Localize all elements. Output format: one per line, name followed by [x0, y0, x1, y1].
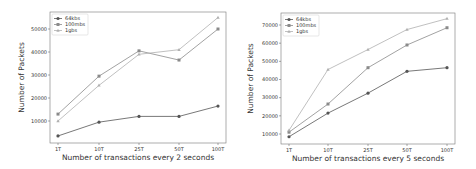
100mbs-marker	[178, 59, 181, 62]
64kbs-marker	[287, 135, 290, 138]
x-tick-label: 1T	[55, 146, 62, 152]
series-line	[58, 106, 218, 136]
legend-label: 1gbs	[65, 27, 78, 34]
x-tick-label: 10T	[323, 147, 333, 153]
x-axis-label: Number of transactions every 2 seconds	[62, 153, 214, 162]
chart-1: 10000200003000040000500001T10T25T50T100T…	[17, 12, 226, 162]
series-64kbs	[287, 66, 448, 138]
series-100mbs	[57, 28, 220, 116]
100mbs-marker	[446, 26, 449, 29]
chart-2: 100002000030000400005000060000700001T10T…	[246, 13, 455, 163]
series-line	[289, 28, 447, 132]
legend-100mbs-marker	[57, 23, 60, 26]
legend: 64kbs100mbs1gbs	[52, 14, 88, 35]
series-64kbs	[56, 104, 219, 137]
figure: 10000200003000040000500001T10T25T50T100T…	[0, 0, 476, 169]
x-tick-label: 25T	[134, 146, 144, 152]
64kbs-marker	[445, 66, 448, 69]
x-tick-label: 100T	[212, 146, 226, 152]
legend-64kbs-marker	[56, 17, 59, 20]
x-tick-label: 1T	[286, 147, 293, 153]
64kbs-marker	[177, 115, 180, 118]
100mbs-marker	[367, 66, 370, 69]
charts-canvas: 10000200003000040000500001T10T25T50T100T…	[0, 0, 476, 169]
legend: 64kbs100mbs1gbs	[283, 15, 319, 36]
series-line	[58, 29, 218, 114]
64kbs-marker	[97, 121, 100, 124]
64kbs-marker	[326, 112, 329, 115]
x-tick-label: 50T	[402, 147, 412, 153]
y-tick-label: 20000	[262, 113, 278, 119]
y-axis-label: Number of Packets	[17, 42, 26, 113]
series-line	[289, 68, 447, 137]
100mbs-marker	[57, 113, 60, 116]
64kbs-marker	[405, 70, 408, 73]
y-tick-label: 50000	[31, 26, 47, 32]
64kbs-marker	[216, 104, 219, 107]
series-100mbs	[288, 26, 449, 133]
100mbs-marker	[406, 43, 409, 46]
100mbs-marker	[327, 103, 330, 106]
x-axis-label: Number of transactions every 5 seconds	[292, 154, 444, 163]
legend-label: 1gbs	[296, 28, 309, 35]
1gbs-marker	[216, 16, 219, 19]
x-tick-label: 100T	[441, 147, 455, 153]
100mbs-marker	[98, 75, 101, 78]
y-tick-label: 50000	[262, 58, 278, 64]
y-tick-label: 60000	[262, 40, 278, 46]
64kbs-marker	[56, 134, 59, 137]
64kbs-marker	[366, 92, 369, 95]
1gbs-marker	[445, 17, 448, 20]
y-tick-label: 30000	[262, 94, 278, 100]
legend-100mbs-marker	[288, 24, 291, 27]
x-tick-label: 50T	[174, 146, 184, 152]
y-tick-label: 20000	[31, 95, 47, 101]
x-tick-label: 10T	[94, 146, 104, 152]
x-tick-label: 25T	[363, 147, 373, 153]
y-tick-label: 30000	[31, 72, 47, 78]
y-tick-label: 10000	[31, 118, 47, 124]
y-tick-label: 40000	[262, 76, 278, 82]
y-axis-label: Number of Packets	[246, 43, 255, 114]
y-tick-label: 70000	[262, 22, 278, 28]
legend-64kbs-marker	[287, 18, 290, 21]
100mbs-marker	[138, 49, 141, 52]
y-tick-label: 40000	[31, 49, 47, 55]
100mbs-marker	[217, 28, 220, 31]
y-tick-label: 10000	[262, 131, 278, 137]
64kbs-marker	[137, 115, 140, 118]
